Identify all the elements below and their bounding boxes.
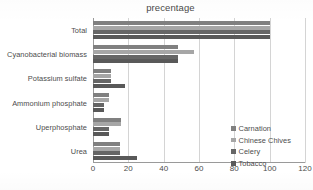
- chart-legend: CarnationChinese ChivesCeleryTobacco: [231, 124, 291, 168]
- bar-group: [93, 91, 305, 115]
- bar: [93, 103, 104, 107]
- legend-swatch-icon: [231, 161, 236, 166]
- y-tick-label: Uperphosphate: [36, 122, 87, 131]
- legend-label: Carnation: [239, 124, 272, 133]
- x-tick-label: 0: [91, 164, 96, 173]
- y-axis-labels: TotalCyanobacterial biomassPotassium sul…: [0, 18, 91, 163]
- x-tick-label: 60: [195, 164, 204, 173]
- y-tick-label: Total: [71, 26, 87, 35]
- bar: [93, 30, 270, 34]
- legend-swatch-icon: [231, 126, 236, 131]
- bar-group: [93, 18, 305, 42]
- bar-group: [93, 66, 305, 90]
- legend-item[interactable]: Tobacco: [231, 159, 291, 168]
- gridline: [305, 18, 306, 163]
- y-tick-label: Urea: [71, 146, 87, 155]
- bar: [93, 118, 121, 122]
- bar: [93, 84, 125, 88]
- bar: [93, 98, 109, 102]
- legend-label: Tobacco: [239, 159, 267, 168]
- bar: [93, 142, 120, 146]
- bar: [93, 45, 178, 49]
- legend-item[interactable]: Celery: [231, 147, 291, 156]
- bar: [93, 127, 109, 131]
- legend-item[interactable]: Carnation: [231, 124, 291, 133]
- bar: [93, 156, 137, 160]
- bar: [93, 122, 121, 126]
- bar: [93, 79, 111, 83]
- bar: [93, 132, 109, 136]
- legend-label: Chinese Chives: [239, 136, 291, 145]
- bar: [93, 93, 109, 97]
- bar-chart: precentage TotalCyanobacterial biomassPo…: [0, 0, 313, 190]
- bar: [93, 69, 111, 73]
- y-tick-label: Ammonium phosphate: [12, 98, 87, 107]
- legend-swatch-icon: [231, 149, 236, 154]
- bar: [93, 26, 270, 30]
- legend-label: Celery: [239, 147, 261, 156]
- bar-group: [93, 42, 305, 66]
- chart-title-text: precentage: [146, 2, 195, 13]
- bar: [93, 21, 270, 25]
- bar: [93, 55, 178, 59]
- bar: [93, 59, 178, 63]
- x-tick-label: 40: [159, 164, 168, 173]
- x-tick-label: 120: [298, 164, 312, 173]
- x-tick-label: 20: [124, 164, 133, 173]
- bar: [93, 35, 270, 39]
- legend-item[interactable]: Chinese Chives: [231, 136, 291, 145]
- bar: [93, 74, 111, 78]
- y-tick-label: Cyanobacterial biomass: [7, 50, 87, 59]
- chart-title: precentage: [0, 2, 313, 13]
- bar: [93, 108, 104, 112]
- bar: [93, 151, 120, 155]
- y-tick-label: Potassium sulfate: [28, 74, 87, 83]
- bar: [93, 50, 194, 54]
- bar: [93, 147, 120, 151]
- legend-swatch-icon: [231, 138, 236, 143]
